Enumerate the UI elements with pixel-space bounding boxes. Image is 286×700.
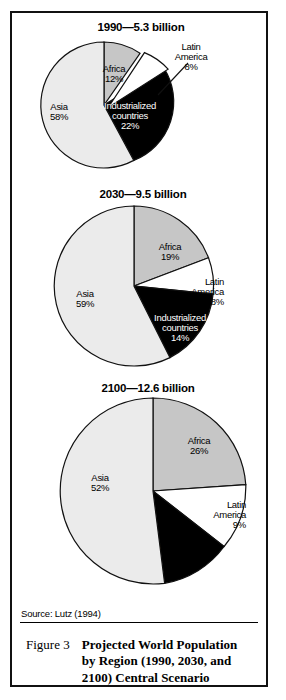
chart-title-1990: 1990—5.3 billion	[12, 21, 266, 33]
label-latin-america-1990: Latin America 8%	[158, 42, 224, 72]
pie-area-2100: Africa 26% Latin America 9% Industrializ…	[12, 394, 266, 594]
label-industrialized-2030: Industrialized countries 14%	[137, 313, 223, 343]
label-industrialized-2100: Industrialized countries 13%	[143, 542, 229, 572]
label-latin-america-2030-value: 8%	[140, 297, 224, 307]
chart-title-2100: 2100—12.6 billion	[12, 382, 266, 394]
label-industrialized-2100-value: 13%	[143, 562, 229, 572]
label-africa-2030-value: 19%	[143, 252, 197, 262]
label-latin-america-1990-value: 8%	[158, 62, 224, 72]
figure-number: Figure 3	[26, 637, 82, 686]
figure-title-line2: by Region (1990, 2030, and	[82, 653, 238, 669]
figure-title-line3: 2100) Central Scenario	[82, 670, 238, 686]
label-industrialized-2030-value: 14%	[137, 333, 223, 343]
label-industrialized-1990-value: 22%	[87, 121, 173, 131]
label-africa-2100: Africa 26%	[172, 436, 226, 456]
label-asia-2100: Asia 52%	[80, 473, 120, 493]
figure-frame: 1990—5.3 billion Africa 12% Latin	[10, 11, 268, 687]
label-asia-1990: Asia 58%	[39, 102, 79, 122]
source-text: Source: Lutz (1994)	[12, 608, 266, 619]
label-africa-1990-value: 12%	[90, 74, 138, 84]
source-row: Source: Lutz (1994)	[12, 608, 266, 623]
pie-svg-2030	[12, 200, 266, 378]
label-africa-2100-value: 26%	[172, 446, 226, 456]
figure-caption: Figure 3 Projected World Population by R…	[12, 637, 266, 686]
label-latin-america-2100: Latin America 9%	[162, 500, 246, 530]
figure-title-line1: Projected World Population	[82, 637, 238, 653]
figure-title: Projected World Population by Region (19…	[82, 637, 238, 686]
label-industrialized-1990: Industrialized countries 22%	[87, 101, 173, 131]
label-asia-1990-value: 58%	[39, 112, 79, 122]
pie-area-1990: Africa 12% Latin America 8% Industrializ…	[12, 33, 266, 181]
label-latin-america-2100-value: 9%	[162, 520, 246, 530]
label-africa-1990: Africa 12%	[90, 64, 138, 84]
label-asia-2100-value: 52%	[80, 483, 120, 493]
pie-chart-1990: 1990—5.3 billion Africa 12% Latin	[12, 21, 266, 181]
source-divider	[20, 622, 258, 623]
pie-chart-2100: 2100—12.6 billion Africa 26% Latin Ameri…	[12, 382, 266, 594]
pie-chart-2030: 2030—9.5 billion Africa 19% Latin Americ…	[12, 188, 266, 378]
chart-title-2030: 2030—9.5 billion	[12, 188, 266, 200]
label-africa-2030: Africa 19%	[143, 242, 197, 262]
label-latin-america-2030: Latin America 8%	[140, 277, 224, 307]
pie-area-2030: Africa 19% Latin America 8% Industrializ…	[12, 200, 266, 378]
label-asia-2030: Asia 59%	[65, 289, 105, 309]
label-asia-2030-value: 59%	[65, 299, 105, 309]
